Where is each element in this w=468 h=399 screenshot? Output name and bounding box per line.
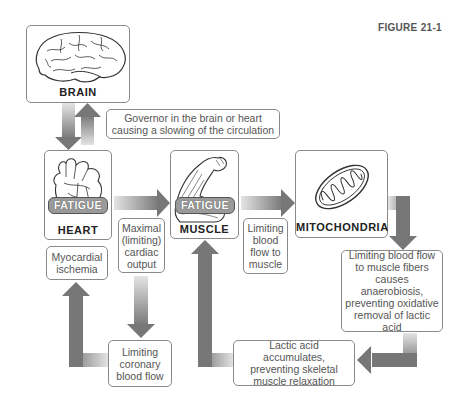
brain-node: BRAIN xyxy=(26,25,130,103)
lactic-line-2: preventing skeletal xyxy=(250,363,338,375)
myocardial-ischemia-note: Myocardial ischemia xyxy=(46,246,108,280)
limiting-muscle-line-1: Limiting xyxy=(247,222,283,234)
mitochondria-icon xyxy=(297,155,387,217)
limiting-muscle-line-3: flow to xyxy=(250,246,280,258)
arrow-mitochondria-to-anaerobiosis xyxy=(388,196,417,250)
anaerobiosis-line-5: removal of lactic xyxy=(354,309,430,321)
arrow-brain-to-heart xyxy=(55,103,82,150)
governor-line-1: Governor in the brain or heart xyxy=(124,112,262,124)
maximal-output-note: Maximal (limiting) cardiac output xyxy=(118,218,165,273)
limiting-coronary-note: Limiting coronary blood flow xyxy=(108,340,172,387)
heart-label: HEART xyxy=(45,224,111,236)
coronary-line-2: coronary xyxy=(120,358,161,370)
anaerobiosis-line-1: Limiting blood flow xyxy=(349,249,435,261)
anaerobiosis-line-2: to muscle fibers xyxy=(355,261,429,273)
figure-label: FIGURE 21-1 xyxy=(378,22,442,33)
limiting-muscle-line-4: muscle xyxy=(249,258,282,270)
arrow-heart-to-muscle xyxy=(114,189,170,217)
anaerobiosis-line-4: preventing oxidative xyxy=(345,297,438,309)
maximal-line-3: cardiac xyxy=(125,246,159,258)
ischemia-line-2: ischemia xyxy=(56,263,97,275)
limiting-muscle-line-2: blood xyxy=(253,234,279,246)
brain-icon xyxy=(31,29,131,89)
brain-label: BRAIN xyxy=(27,86,129,98)
lactic-line-1: Lactic acid accumulates, xyxy=(237,339,351,363)
lactic-acid-note: Lactic acid accumulates, preventing skel… xyxy=(233,340,355,386)
arrow-muscle-to-mitochondria xyxy=(241,189,295,217)
lactic-line-3: muscle relaxation xyxy=(253,375,335,387)
muscle-fatigue-badge: FATIGUE xyxy=(175,197,235,214)
anaerobiosis-line-3: causes anaerobiosis, xyxy=(345,273,439,297)
arrow-lactic-to-muscle xyxy=(191,240,234,367)
muscle-label: MUSCLE xyxy=(171,223,238,235)
mitochondria-node: MITOCHONDRIA xyxy=(295,150,388,238)
ischemia-line-1: Myocardial xyxy=(52,251,103,263)
arrow-coronary-to-ischemia xyxy=(62,282,108,367)
coronary-line-3: blood flow xyxy=(116,370,163,382)
muscle-node: FATIGUE MUSCLE xyxy=(170,150,239,239)
governor-line-2: causing a slowing of the circulation xyxy=(112,124,274,136)
mitochondria-label: MITOCHONDRIA xyxy=(296,221,387,233)
anaerobiosis-note: Limiting blood flow to muscle fibers cau… xyxy=(341,250,443,332)
maximal-line-4: output xyxy=(127,258,156,270)
coronary-line-1: Limiting xyxy=(122,346,158,358)
governor-note: Governor in the brain or heart causing a… xyxy=(106,109,280,139)
maximal-line-2: (limiting) xyxy=(122,234,162,246)
arrow-anaerobiosis-to-lactic xyxy=(357,333,417,374)
arrow-maximal-to-coronary xyxy=(127,276,155,338)
heart-fatigue-badge: FATIGUE xyxy=(48,197,108,214)
anaerobiosis-line-6: acid xyxy=(382,321,401,333)
heart-node: FATIGUE HEART xyxy=(44,150,112,240)
limiting-blood-flow-muscle-note: Limiting blood flow to muscle xyxy=(243,218,288,274)
maximal-line-1: Maximal xyxy=(122,222,161,234)
